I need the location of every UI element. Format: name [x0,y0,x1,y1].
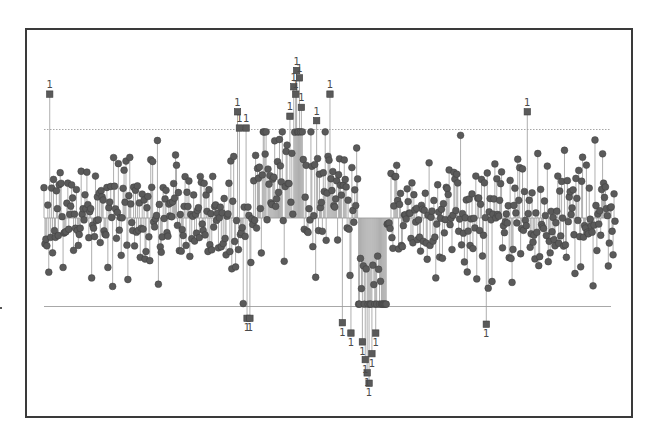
out-of-control-point [348,330,354,336]
data-point [570,186,577,193]
data-point [454,180,461,187]
data-point [121,167,128,174]
data-point [497,180,504,187]
data-point [207,210,214,217]
data-point [428,214,435,221]
data-point [510,246,517,253]
data-point [399,243,406,250]
data-point [306,205,313,212]
data-point [92,173,99,180]
data-point [67,203,74,210]
data-point [208,246,215,253]
data-point [259,172,266,179]
data-point [45,269,52,276]
data-point [54,205,61,212]
data-point [447,221,454,228]
data-point [608,203,615,210]
data-point [473,276,480,283]
data-point [397,190,404,197]
data-point [124,276,131,283]
data-point [87,205,94,212]
out-of-control-point [298,104,304,110]
data-point [151,223,158,230]
data-point [445,191,452,198]
data-point [230,153,237,160]
data-point [424,256,431,263]
data-point [491,161,498,168]
data-point [526,197,533,204]
data-point [405,198,412,205]
data-point [389,234,396,241]
out-of-control-label: 1 [298,92,304,103]
data-point [113,235,120,242]
data-point [263,128,270,135]
data-point [534,150,541,157]
data-point [540,225,547,232]
data-point [415,217,422,224]
data-point [545,258,552,265]
data-point [332,196,339,203]
data-point [146,257,153,264]
data-point [542,212,549,219]
data-point [49,249,56,256]
out-of-control-label: 1 [247,322,253,333]
data-point [190,191,197,198]
data-point [299,128,306,135]
data-point [270,174,277,181]
data-point [587,216,594,223]
data-point [251,217,258,224]
data-point [110,154,117,161]
data-point [519,165,526,172]
data-point [496,197,503,204]
data-point [465,228,472,235]
data-point [100,197,107,204]
data-point [222,235,229,242]
data-point [351,186,358,193]
data-point [547,249,554,256]
data-point [242,233,249,240]
data-point [231,238,238,245]
data-point [572,270,579,277]
data-point [235,246,242,253]
data-point [58,180,65,187]
out-of-control-label: 1 [348,337,354,348]
data-point [345,197,352,204]
data-point [247,259,254,266]
data-point [209,173,216,180]
data-point [498,168,505,175]
data-point [172,152,179,159]
data-point [441,229,448,236]
data-point [430,197,437,204]
data-point [165,233,172,240]
data-point [258,250,265,257]
data-point [352,202,359,209]
data-point [434,181,441,188]
data-point [354,175,361,182]
data-point [400,222,407,229]
data-point [409,180,416,187]
data-point [265,166,272,173]
data-point [431,234,438,241]
data-point [305,229,312,236]
data-point [57,169,64,176]
data-point [284,142,291,149]
data-point [253,225,260,232]
data-point [331,204,338,211]
out-of-control-point [47,91,53,97]
out-of-control-label: 1 [327,79,333,90]
data-point [175,189,182,196]
data-point [280,217,287,224]
data-point [326,157,333,164]
data-point [464,269,471,276]
data-point [334,237,341,244]
data-point [535,262,542,269]
data-point [404,185,411,192]
data-point [393,162,400,169]
data-point [508,255,515,262]
data-point [536,253,543,260]
data-point [377,278,384,285]
data-point [601,194,608,201]
data-point [289,211,296,218]
data-point [577,263,584,270]
data-point [609,228,616,235]
